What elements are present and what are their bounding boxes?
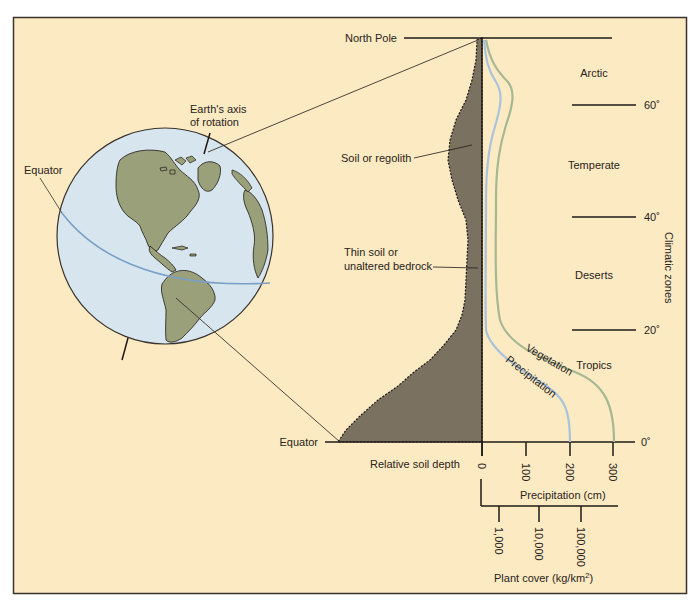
zone-temperate: Temperate xyxy=(568,159,620,171)
soil-regolith-label: Soil or regolith xyxy=(341,152,411,164)
soil-climate-diagram: Equator Earth's axis of rotation North P… xyxy=(0,0,696,606)
precip-tick-label-0: 0 xyxy=(476,463,488,469)
plant-tick-label-1000: 1,000 xyxy=(493,527,505,555)
axis-label-line2: of rotation xyxy=(190,116,239,128)
precip-tick-label-300: 300 xyxy=(607,463,619,481)
plant-tick-label-100000: 100,000 xyxy=(575,527,587,567)
climatic-zones-title: Climatic zones xyxy=(663,232,675,304)
north-pole-label: North Pole xyxy=(345,32,397,44)
globe-equator-label: Equator xyxy=(24,164,63,176)
relative-soil-depth-label: Relative soil depth xyxy=(370,458,460,470)
thin-soil-label-line1: Thin soil or xyxy=(344,246,398,258)
lat-40-label: 40˚ xyxy=(644,211,660,223)
zone-deserts: Deserts xyxy=(575,269,613,281)
plant-axis-title: Plant cover (kg/km2) xyxy=(494,571,593,584)
lat-60-label: 60˚ xyxy=(644,99,660,111)
precip-tick-label-100: 100 xyxy=(520,463,532,481)
plant-axis-title-main: Plant cover (kg/km xyxy=(494,572,585,584)
axis-label-line1: Earth's axis xyxy=(190,103,247,115)
zone-arctic: Arctic xyxy=(580,67,608,79)
zone-tropics: Tropics xyxy=(576,359,612,371)
precip-axis-title: Precipitation (cm) xyxy=(520,489,606,501)
plant-tick-label-10000: 10,000 xyxy=(533,527,545,561)
plant-axis-title-end: ) xyxy=(590,572,594,584)
lat-0-label: 0˚ xyxy=(641,436,651,448)
precip-tick-label-200: 200 xyxy=(564,463,576,481)
thin-soil-label-line2: unaltered bedrock xyxy=(344,260,433,272)
profile-equator-label: Equator xyxy=(279,436,318,448)
lat-20-label: 20˚ xyxy=(644,324,660,336)
